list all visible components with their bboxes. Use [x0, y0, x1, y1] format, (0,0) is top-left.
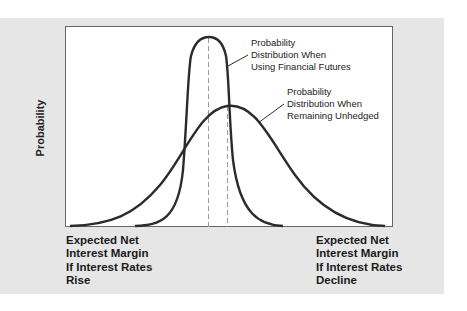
- annotation-unhedged: Probability Distribution When Remaining …: [287, 86, 379, 122]
- x-label-line: Interest Margin: [66, 247, 152, 260]
- x-label-line: Expected Net: [316, 234, 402, 247]
- annotation-hedged: Probability Distribution When Using Fina…: [251, 37, 351, 73]
- annotation-line: Distribution When: [251, 49, 351, 61]
- x-label-rates-rise: Expected Net Interest Margin If Interest…: [66, 234, 152, 287]
- x-label-line: Rise: [66, 274, 152, 287]
- x-label-line: Decline: [316, 274, 402, 287]
- y-axis-label: Probability: [34, 100, 46, 157]
- x-label-line: Expected Net: [66, 234, 152, 247]
- annotation-line: Remaining Unhedged: [287, 110, 379, 122]
- annotation-line: Distribution When: [287, 98, 379, 110]
- x-label-line: Interest Margin: [316, 247, 402, 260]
- x-label-line: If Interest Rates: [316, 261, 402, 274]
- x-label-line: If Interest Rates: [66, 261, 152, 274]
- x-label-rates-decline: Expected Net Interest Margin If Interest…: [316, 234, 402, 287]
- annotation-line: Probability: [251, 37, 351, 49]
- annotation-line: Using Financial Futures: [251, 61, 351, 73]
- annotation-line: Probability: [287, 86, 379, 98]
